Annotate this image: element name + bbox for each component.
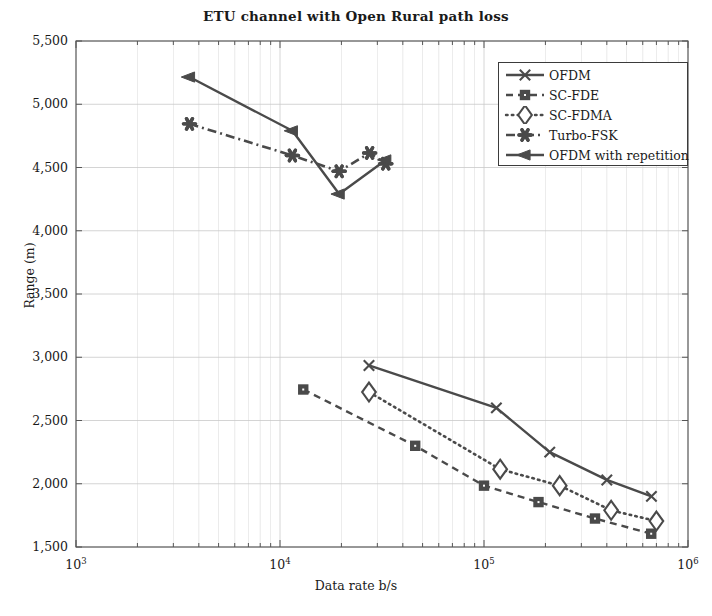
legend-sample-left-triangle-icon [504,146,546,164]
chart-legend: OFDMSC-FDESC-FDMATurbo-FSKOFDM with repe… [498,62,688,166]
y-tick-label: 4,500 [12,160,68,175]
legend-label: OFDM [549,68,591,83]
marker-x [646,491,656,501]
marker-shape [517,150,530,160]
y-tick-label: 5,000 [12,96,68,111]
marker-asterisk [519,130,531,140]
x-tick-base: 10 [269,557,285,572]
marker-square [300,386,306,392]
marker-shape [648,531,654,537]
y-tick-label: 5,500 [12,33,68,48]
marker-square [522,92,528,98]
legend-swatch [504,66,546,84]
series-ofdm [364,360,657,501]
y-tick-label: 4,000 [12,223,68,238]
legend-swatch [504,86,546,104]
legend-label: Turbo-FSK [549,128,618,143]
marker-left-triangle [181,72,194,82]
marker-diamond [604,501,618,520]
x-tick-exponent: 4 [285,556,290,566]
marker-diamond [650,512,664,531]
marker-left-triangle [517,150,530,160]
x-tick-exponent: 3 [81,556,86,566]
marker-square [481,483,487,489]
x-tick-label: 103 [53,556,99,572]
marker-shape [592,515,598,521]
x-tick-exponent: 6 [693,556,698,566]
x-tick-exponent: 5 [489,556,494,566]
marker-square [648,531,654,537]
marker-diamond [553,476,567,495]
marker-square [535,499,541,505]
legend-label: OFDM with repetition [549,148,689,163]
legend-swatch [504,146,546,164]
marker-diamond [493,460,507,479]
chart-figure: ETU channel with Open Rural path loss Ra… [0,0,712,616]
legend-item-ofdm-with-repetition[interactable]: OFDM with repetition [499,145,687,165]
marker-shape [300,386,306,392]
marker-shape [362,383,376,402]
legend-item-turbo-fsk[interactable]: Turbo-FSK [499,125,687,145]
series-line [369,392,656,521]
marker-diamond [362,383,376,402]
marker-shape [522,92,528,98]
series-sc-fde [300,386,654,536]
series-line [189,77,385,194]
marker-asterisk [183,119,195,129]
series-line [303,390,651,534]
legend-swatch [504,106,546,124]
legend-sample-asterisk-icon [504,126,546,144]
marker-shape [535,499,541,505]
marker-square [592,515,598,521]
series-sc-fdma [362,383,663,531]
marker-shape [412,443,418,449]
x-tick-base: 10 [677,557,693,572]
marker-shape [604,501,618,520]
legend-swatch [504,126,546,144]
marker-shape [518,106,532,124]
legend-sample-square-icon [504,86,546,104]
marker-shape [493,460,507,479]
marker-diamond [518,106,532,124]
series-ofdm-with-repetition [181,72,391,199]
legend-sample-x-icon [504,66,546,84]
x-tick-label: 105 [461,556,507,572]
x-tick-label: 104 [257,556,303,572]
legend-item-ofdm[interactable]: OFDM [499,65,687,85]
marker-shape [181,72,194,82]
x-tick-base: 10 [65,557,81,572]
y-tick-label: 1,500 [12,539,68,554]
marker-asterisk [286,150,298,160]
marker-x [545,447,555,457]
marker-shape [481,483,487,489]
x-tick-label: 106 [665,556,711,572]
legend-sample-diamond-icon [504,106,546,124]
legend-item-sc-fde[interactable]: SC-FDE [499,85,687,105]
y-tick-label: 2,000 [12,476,68,491]
legend-item-sc-fdma[interactable]: SC-FDMA [499,105,687,125]
y-tick-label: 2,500 [12,413,68,428]
y-tick-label: 3,500 [12,286,68,301]
marker-square [412,443,418,449]
legend-label: SC-FDE [549,88,599,103]
legend-label: SC-FDMA [549,108,612,123]
marker-shape [650,512,664,531]
y-tick-label: 3,000 [12,349,68,364]
x-tick-base: 10 [473,557,489,572]
marker-shape [553,476,567,495]
